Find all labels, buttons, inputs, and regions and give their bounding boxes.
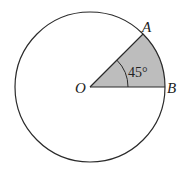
- circle-sector-diagram: O A B 45°: [0, 0, 183, 171]
- angle-label: 45°: [128, 65, 148, 80]
- label-a: A: [141, 19, 152, 35]
- label-o: O: [75, 80, 86, 96]
- label-b: B: [167, 80, 176, 96]
